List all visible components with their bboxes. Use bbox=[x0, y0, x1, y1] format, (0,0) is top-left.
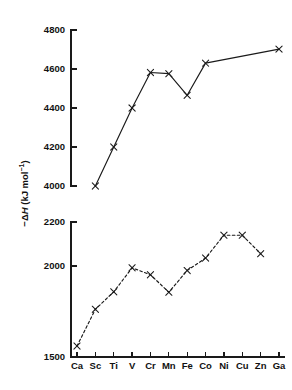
x-tick-label-Cr: Cr bbox=[145, 360, 156, 371]
x-tick-label-Co: Co bbox=[199, 360, 212, 371]
x-tick-label-Ni: Ni bbox=[219, 360, 229, 371]
lower-panel-ytick-label: 1500 bbox=[44, 351, 65, 362]
upper-panel-ytick-label: 4600 bbox=[44, 63, 65, 74]
upper-panel-ytick-label: 4400 bbox=[44, 102, 65, 113]
lower-panel-point-Cr bbox=[147, 272, 153, 278]
upper-panel-ytick-label: 4800 bbox=[44, 24, 65, 35]
x-tick-label-Ca: Ca bbox=[71, 360, 84, 371]
x-tick-label-Mn: Mn bbox=[162, 360, 176, 371]
upper-panel-point-Ti bbox=[111, 144, 117, 150]
lower-panel: 150020002200 bbox=[44, 216, 261, 362]
upper-panel-point-Sc bbox=[92, 183, 98, 189]
x-tick-label-Fe: Fe bbox=[182, 360, 193, 371]
x-tick-label-Sc: Sc bbox=[90, 360, 102, 371]
upper-panel-point-V bbox=[129, 105, 135, 111]
y-axis-title: −ΔH (kJ mol−1) bbox=[18, 160, 30, 226]
upper-panel-ytick-label: 4200 bbox=[44, 141, 65, 152]
upper-panel-point-Fe bbox=[184, 92, 190, 98]
upper-panel-ytick-label: 4000 bbox=[44, 180, 65, 191]
lower-panel-series-0 bbox=[77, 235, 261, 346]
hydration-enthalpy-chart: 40004200440046004800150020002200CaScTiVC… bbox=[0, 0, 292, 390]
x-tick-label-Ti: Ti bbox=[110, 360, 118, 371]
lower-panel-point-Zn bbox=[258, 251, 264, 257]
lower-panel-ytick-label: 2000 bbox=[44, 260, 65, 271]
lower-panel-ytick-label: 2200 bbox=[44, 216, 65, 227]
lower-panel-point-Ni bbox=[221, 232, 227, 238]
x-tick-label-Zn: Zn bbox=[255, 360, 267, 371]
upper-panel: 40004200440046004800 bbox=[44, 24, 279, 191]
lower-panel-point-Ca bbox=[74, 343, 80, 349]
lower-panel-point-Mn bbox=[166, 289, 172, 295]
x-axis: CaScTiVCrMnFeCoNiCuZnGa bbox=[71, 352, 286, 371]
lower-panel-y-axis bbox=[71, 222, 77, 357]
lower-panel-point-V bbox=[129, 265, 135, 271]
chart-figure: 40004200440046004800150020002200CaScTiVC… bbox=[0, 0, 292, 390]
lower-panel-point-Fe bbox=[184, 267, 190, 273]
x-tick-label-Cu: Cu bbox=[236, 360, 249, 371]
lower-panel-point-Ti bbox=[111, 289, 117, 295]
upper-panel-series-0 bbox=[95, 49, 279, 186]
x-tick-label-V: V bbox=[129, 360, 136, 371]
lower-panel-point-Co bbox=[202, 255, 208, 261]
x-tick-label-Ga: Ga bbox=[273, 360, 286, 371]
lower-panel-point-Sc bbox=[92, 306, 98, 312]
